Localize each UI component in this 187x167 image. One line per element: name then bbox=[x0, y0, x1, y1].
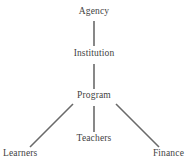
edge-program-learners bbox=[30, 104, 73, 147]
node-learners: Learners bbox=[3, 148, 37, 159]
node-institution: Institution bbox=[74, 48, 115, 59]
edge-program-finance bbox=[116, 104, 159, 147]
node-teachers: Teachers bbox=[77, 133, 112, 144]
hierarchy-diagram: Agency Institution Program Learners Teac… bbox=[0, 0, 187, 167]
node-program: Program bbox=[77, 90, 111, 101]
node-agency: Agency bbox=[79, 6, 109, 17]
node-finance: Finance bbox=[153, 148, 184, 159]
